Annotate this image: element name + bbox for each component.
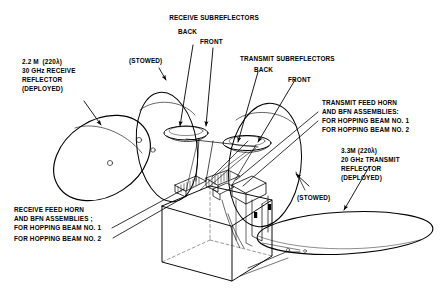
label-transmit-reflector-line1: 3.3M (220λ)	[341, 147, 377, 155]
label-receive-subreflectors-heading: RECEIVE SUBREFLECTORS	[150, 14, 278, 22]
label-transmit-feed-line3: FOR HOPPING BEAM NO. 1	[322, 117, 409, 125]
label-receive-feed-line3: FOR HOPPING BEAM NO. 1	[14, 224, 101, 232]
label-receive-subreflector-back: BACK	[178, 28, 197, 36]
receive-reflector-deployed	[38, 98, 167, 218]
label-transmit-subreflector-front: FRONT	[288, 76, 311, 84]
leader-receive-feed-2	[113, 195, 188, 238]
label-transmit-feed-line2: AND BFN ASSEMBLIES:	[322, 108, 399, 116]
leader-receive-reflector	[84, 101, 101, 125]
label-transmit-reflector-line2: 20 GHz TRANSMIT	[341, 156, 400, 164]
leader-receive-feed-1	[112, 189, 184, 228]
label-receive-reflector-line1: 2.2 M (220λ)	[22, 58, 62, 66]
label-receive-reflector-line2: 30 GHz RECEIVE	[22, 67, 76, 75]
label-transmit-feed-line1: TRANSMIT FEED HORN	[322, 99, 397, 107]
diagram-canvas: RECEIVE SUBREFLECTORS BACK FRONT TRANSMI…	[0, 0, 442, 289]
label-receive-reflector-line3: REFLECTOR	[22, 76, 62, 84]
label-receive-feed-line4: FOR HOPPING BEAM NO. 2	[14, 235, 101, 243]
leader-receive-back	[180, 45, 193, 126]
label-receive-reflector-line4: (DEPLOYED)	[22, 85, 63, 93]
label-stowed-left: (STOWED)	[129, 57, 162, 65]
label-transmit-reflector-line3: REFLECTOR	[341, 165, 381, 173]
leader-transmit-back	[238, 72, 258, 142]
leader-transmit-front	[258, 80, 295, 142]
leader-stowed-left	[159, 68, 166, 80]
label-receive-subreflector-front: FRONT	[200, 38, 223, 46]
label-transmit-subreflector-back: BACK	[254, 66, 273, 74]
label-receive-feed-line1: RECEIVE FEED HORN	[14, 206, 84, 214]
label-transmit-subreflectors-heading: TRANSMIT SUBREFLECTORS	[240, 55, 335, 63]
leader-transmit-feed-2	[243, 121, 318, 186]
label-stowed-right: (STOWED)	[297, 194, 330, 202]
label-transmit-reflector-line4: (DEPLOYED)	[341, 174, 382, 182]
receive-reflector-stowed	[130, 88, 205, 205]
label-transmit-feed-line4: FOR HOPPING BEAM NO. 2	[322, 126, 409, 134]
transmit-reflector-stowed	[222, 99, 309, 231]
leader-lines	[84, 45, 369, 238]
satellite-bus	[162, 186, 300, 281]
leader-receive-front	[206, 48, 213, 126]
label-receive-feed-line2: AND BFN ASSEMBLIES ;	[14, 215, 93, 223]
